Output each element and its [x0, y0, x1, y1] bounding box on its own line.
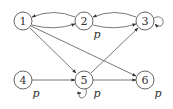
edge-5-self-loop [79, 89, 86, 98]
edge-3-to-2 [93, 13, 136, 18]
node-6: 6 [136, 71, 154, 89]
node-1-label: 1 [20, 15, 27, 28]
node-4: 4 [14, 71, 32, 89]
node-5: 5 [75, 71, 93, 89]
node-5-label: 5 [81, 74, 88, 87]
edge-1-to-5 [30, 28, 76, 73]
node-3: 3 [136, 12, 154, 30]
edge-1-to-6 [31, 26, 136, 76]
node-4-annotation: p [32, 87, 39, 100]
node-1: 1 [14, 12, 32, 30]
node-5-annotation: p [93, 87, 100, 100]
edge-2-to-1 [32, 13, 75, 18]
node-3-label: 3 [142, 15, 149, 28]
edge-3-self-loop [154, 17, 163, 26]
node-6-annotation: p [154, 87, 161, 100]
node-2: 2 [75, 12, 93, 30]
node-2-label: 2 [81, 15, 88, 28]
node-2-annotation: p [93, 28, 100, 41]
node-6-label: 6 [142, 74, 149, 87]
graph-diagram: 1 2 3 4 5 6 p p p p [0, 0, 173, 109]
edge-1-to-2 [32, 24, 75, 28]
node-4-label: 4 [20, 74, 27, 87]
